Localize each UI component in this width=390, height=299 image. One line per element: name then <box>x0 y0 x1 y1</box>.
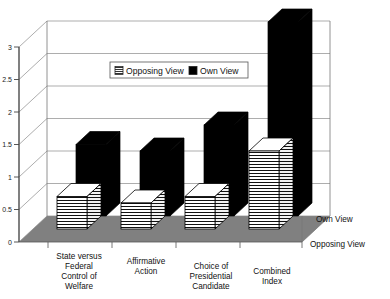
ytick-label-3: 3 <box>8 44 12 51</box>
svg-text:Index: Index <box>262 277 282 286</box>
value-axis-ticks <box>14 47 19 242</box>
depth-axis-labels: Own View Opposing View <box>310 215 365 249</box>
legend-label-own-view: Own View <box>200 66 239 76</box>
svg-text:Welfare: Welfare <box>65 282 94 291</box>
depth-label-own-view: Own View <box>316 215 353 224</box>
ytick-label-2: 2 <box>8 109 12 116</box>
category-label-choice-of-presidential-candidate: Choice of Presidential Candidate <box>190 262 233 291</box>
svg-text:Combined: Combined <box>253 267 291 276</box>
svg-text:Presidential: Presidential <box>190 272 233 281</box>
chart-legend[interactable]: Opposing View Own View <box>110 62 248 78</box>
category-label-state-versus-federal-control-of-welfare: State versus Federal Control of Welfare <box>56 252 102 291</box>
ytick-label-0: 0 <box>8 239 12 246</box>
ytick-label-1.5: 1.5 <box>2 141 12 148</box>
category-label-combined-index: Combined Index <box>253 267 291 286</box>
svg-text:Choice of: Choice of <box>194 262 229 271</box>
legend-item-opposing-view[interactable]: Opposing View <box>115 66 184 76</box>
svg-text:State versus: State versus <box>56 252 102 261</box>
legend-swatch-own-view <box>189 67 197 75</box>
ytick-label-2.5: 2.5 <box>2 76 12 83</box>
value-axis-labels: 3 2.5 2 1.5 1 0.5 0 <box>2 44 12 246</box>
category-label-affirmative-action: Affirmative Action <box>127 257 166 276</box>
bar-opposing-view-combined-index <box>249 138 293 229</box>
bar-opposing-view-state-versus-federal-control-of-welfare <box>57 184 101 230</box>
svg-text:Affirmative: Affirmative <box>127 257 166 266</box>
three-d-bar-chart: 3 2.5 2 1.5 1 0.5 0 <box>0 0 390 299</box>
svg-text:Federal: Federal <box>65 262 93 271</box>
category-axis <box>19 242 302 248</box>
svg-text:Action: Action <box>135 267 158 276</box>
depth-label-opposing-view: Opposing View <box>310 240 365 249</box>
legend-label-opposing-view: Opposing View <box>126 66 184 76</box>
svg-text:Control of: Control of <box>61 272 97 281</box>
ytick-label-1: 1 <box>8 174 12 181</box>
bar-opposing-view-choice-of-presidential-candidate <box>185 184 229 230</box>
category-labels: State versus Federal Control of Welfare … <box>56 252 291 291</box>
legend-item-own-view[interactable]: Own View <box>189 66 239 76</box>
chart-container: 3 2.5 2 1.5 1 0.5 0 <box>0 0 390 299</box>
svg-text:Candidate: Candidate <box>192 282 230 291</box>
legend-swatch-opposing-view <box>115 67 123 75</box>
ytick-label-0.5: 0.5 <box>2 206 12 213</box>
